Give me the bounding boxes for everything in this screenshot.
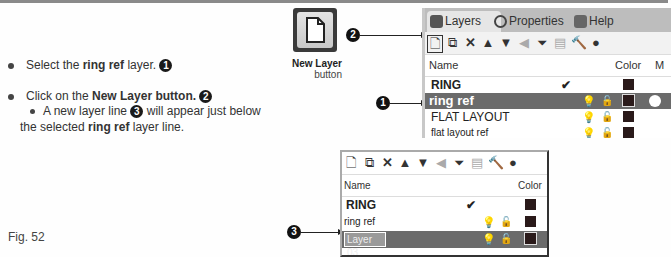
filter-icon[interactable]: ⏷ [535, 35, 549, 51]
tab-label: Properties [509, 14, 564, 28]
tab-help[interactable]: Help [571, 11, 629, 32]
step-2-sub: A new layer line 3 will appear just belo… [30, 104, 261, 119]
step-2-sub-line2: the selected ring ref layer line. [20, 120, 184, 135]
lock-icon[interactable]: 🔓 [500, 231, 512, 247]
callout-badge: 1 [159, 59, 172, 72]
layer-row[interactable]: flat layout ref 💡 🔓 [425, 125, 671, 138]
tab-label: Layers [445, 14, 481, 28]
callout-badge: 3 [130, 105, 143, 118]
lock-icon[interactable]: 🔓 [601, 109, 613, 125]
column-material[interactable]: M [655, 55, 664, 76]
step-text: Select the [26, 58, 83, 72]
step-2: Click on the New Layer button. 2 [8, 89, 212, 104]
tools-icon[interactable]: 🔨 [571, 35, 585, 51]
layer-row-selected[interactable]: ring ref 💡 🔓 [425, 93, 671, 109]
column-color[interactable]: Color [615, 55, 641, 76]
figure-label: Fig. 52 [8, 230, 45, 244]
arrow-3 [301, 232, 343, 233]
new-layer-icon[interactable]: 🗋 [344, 155, 358, 171]
step-text: the selected [20, 120, 88, 134]
layer-name: FLAT LAYOUT [431, 109, 510, 125]
step-text: layer line. [129, 120, 184, 134]
delete-icon[interactable]: ✕ [463, 35, 477, 51]
visibility-bulb-icon[interactable]: 💡 [582, 125, 596, 138]
help-icon[interactable]: ● [589, 35, 603, 51]
color-swatch[interactable] [623, 79, 634, 90]
layer-row[interactable]: RING ✔ [342, 197, 547, 214]
tab-label: Help [589, 14, 614, 28]
column-header: Name Color [342, 175, 547, 197]
layers-panel: Layers Properties Help 🗋 ⧉ ✕ ▲ ▼ ◀ ⏷ ▤ 🔨… [422, 8, 671, 138]
current-check-icon[interactable]: ✔ [466, 197, 476, 213]
delete-icon[interactable]: ✕ [380, 155, 394, 171]
step-bold: New Layer button. [92, 89, 196, 103]
layer-row[interactable]: FLAT LAYOUT 💡 🔓 [425, 109, 671, 125]
properties-icon [494, 15, 507, 28]
layer-name-input[interactable]: Layer 03 [344, 232, 386, 247]
color-swatch[interactable] [525, 199, 536, 210]
new-layer-caption: New Layer button [284, 58, 342, 80]
step-1: Select the ring ref layer. 1 [8, 58, 172, 73]
move-up-icon[interactable]: ▲ [398, 155, 412, 171]
bullet [8, 63, 14, 69]
color-swatch[interactable] [623, 95, 634, 106]
move-left-icon[interactable]: ◀ [434, 155, 448, 171]
column-color[interactable]: Color [518, 175, 542, 196]
lock-icon[interactable]: 🔓 [500, 214, 512, 230]
visibility-bulb-icon[interactable]: 💡 [482, 214, 496, 230]
move-left-icon[interactable]: ◀ [517, 35, 531, 51]
callout-1: 1 [376, 96, 390, 110]
callout-3: 3 [287, 225, 301, 239]
visibility-bulb-icon[interactable]: 💡 [582, 93, 596, 109]
tab-properties[interactable]: Properties [491, 11, 577, 32]
layer-row[interactable]: RING ✔ [425, 77, 671, 93]
callout-badge: 2 [199, 90, 212, 103]
clipboard-icon[interactable]: ▤ [470, 155, 484, 171]
top-rule [0, 0, 668, 3]
layer-name: ring ref [344, 214, 375, 230]
arrow-2 [360, 35, 426, 36]
layers-toolbar: 🗋 ⧉ ✕ ▲ ▼ ◀ ⏷ ▤ 🔨 ● [425, 32, 671, 55]
new-sublayer-icon[interactable]: ⧉ [445, 35, 459, 51]
color-swatch[interactable] [525, 216, 536, 227]
layer-row-new[interactable]: Layer 03 💡 🔓 [342, 231, 547, 248]
caption-bold: New Layer [284, 58, 342, 69]
bullet [30, 109, 35, 114]
layer-name: flat layout ref [431, 125, 488, 138]
new-sublayer-icon[interactable]: ⧉ [362, 155, 376, 171]
layers-panel-after: 🗋 ⧉ ✕ ▲ ▼ ◀ ⏷ ▤ 🔨 ● Name Color RING ✔ ri… [340, 150, 549, 257]
material-circle-icon[interactable] [649, 95, 661, 107]
step-text: Click on the [26, 89, 92, 103]
help-icon[interactable]: ● [506, 155, 520, 171]
clipboard-icon[interactable]: ▤ [553, 35, 567, 51]
panel-tabs: Layers Properties Help [425, 8, 671, 32]
move-up-icon[interactable]: ▲ [481, 35, 495, 51]
step-text: will appear just below [143, 104, 260, 118]
visibility-bulb-icon[interactable]: 💡 [482, 231, 496, 247]
layer-name: ring ref [429, 93, 474, 109]
color-swatch[interactable] [525, 233, 536, 244]
tools-icon[interactable]: 🔨 [488, 155, 502, 171]
new-layer-icon [297, 12, 333, 48]
move-down-icon[interactable]: ▼ [499, 35, 513, 51]
layer-name: RING [431, 77, 461, 93]
current-check-icon[interactable]: ✔ [561, 77, 571, 93]
filter-icon[interactable]: ⏷ [452, 155, 466, 171]
arrow-1 [390, 103, 426, 104]
layer-row[interactable]: ring ref 💡 🔓 [342, 214, 547, 231]
column-header: Name Color M [425, 55, 671, 77]
color-swatch[interactable] [623, 127, 634, 138]
lock-icon[interactable]: 🔓 [601, 125, 613, 138]
bullet [8, 94, 14, 100]
color-swatch[interactable] [623, 111, 634, 122]
new-layer-icon[interactable]: 🗋 [427, 35, 443, 53]
new-layer-button-illustration [293, 8, 337, 52]
visibility-bulb-icon[interactable]: 💡 [582, 109, 596, 125]
column-name[interactable]: Name [344, 175, 371, 196]
step-text: layer. [124, 58, 156, 72]
caption-sub: button [284, 69, 342, 80]
lock-icon[interactable]: 🔓 [601, 93, 613, 109]
move-down-icon[interactable]: ▼ [416, 155, 430, 171]
column-name[interactable]: Name [429, 55, 458, 76]
tab-layers[interactable]: Layers [427, 11, 501, 32]
